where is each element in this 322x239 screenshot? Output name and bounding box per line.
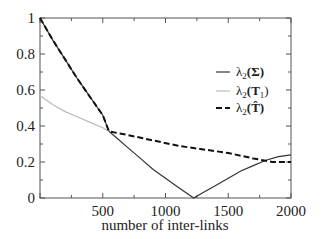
series-line-1	[40, 95, 109, 131]
y-tick-label: 0.4	[16, 118, 35, 134]
x-axis-label: number of inter-links	[101, 217, 228, 233]
y-tick-label: 0	[28, 190, 36, 206]
y-tick-label: 0.8	[16, 46, 35, 62]
y-tick-label: 0.2	[16, 154, 35, 170]
x-tick-label: 2000	[276, 203, 306, 219]
legend-label: λ2(Σ)	[236, 64, 264, 81]
line-chart: 00.20.40.60.81500100015002000 λ2(Σ)λ2(T1…	[0, 0, 322, 239]
legend-label: λ2(T1)	[236, 83, 269, 100]
y-tick-label: 1	[28, 10, 36, 26]
legend-label: λ2(T̂)	[236, 100, 264, 117]
legend: λ2(Σ)λ2(T1)λ2(T̂)	[216, 64, 269, 117]
y-tick-label: 0.6	[16, 82, 35, 98]
